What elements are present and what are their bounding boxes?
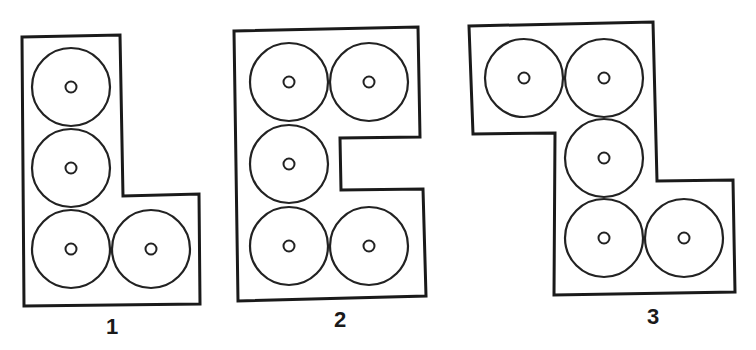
disc-center-hole	[284, 159, 295, 170]
disc	[485, 39, 563, 117]
disc-center-hole	[146, 244, 157, 255]
disc	[250, 43, 328, 121]
disc	[330, 207, 408, 285]
disc	[250, 207, 328, 285]
disc-center-hole	[679, 233, 690, 244]
disc	[32, 210, 110, 288]
disc-center-hole	[284, 77, 295, 88]
figure-1: 1	[22, 35, 200, 339]
disc-center-hole	[599, 73, 610, 84]
figure-2: 2	[234, 27, 426, 332]
figure-2-discs	[250, 43, 408, 285]
figure-3-label: 3	[647, 304, 659, 329]
disc	[565, 199, 643, 277]
disc-center-hole	[599, 233, 610, 244]
disc-center-hole	[364, 77, 375, 88]
disc	[565, 119, 643, 197]
disc-center-hole	[66, 163, 77, 174]
figure-2-outline	[234, 27, 426, 301]
figure-2-label: 2	[334, 307, 346, 332]
disc	[32, 48, 110, 126]
disc-packing-diagram: 1 2 3	[0, 0, 756, 350]
disc	[250, 125, 328, 203]
disc	[645, 199, 723, 277]
disc-center-hole	[519, 73, 530, 84]
disc-center-hole	[66, 82, 77, 93]
disc	[330, 43, 408, 121]
diagram-canvas: 1 2 3	[0, 0, 756, 350]
disc	[565, 39, 643, 117]
figure-3-discs	[485, 39, 723, 277]
figure-1-label: 1	[106, 314, 118, 339]
disc-center-hole	[284, 241, 295, 252]
figure-1-discs	[32, 48, 190, 288]
disc	[112, 210, 190, 288]
figure-3: 3	[469, 22, 735, 329]
disc-center-hole	[599, 153, 610, 164]
disc-center-hole	[66, 244, 77, 255]
disc-center-hole	[364, 241, 375, 252]
disc	[32, 129, 110, 207]
